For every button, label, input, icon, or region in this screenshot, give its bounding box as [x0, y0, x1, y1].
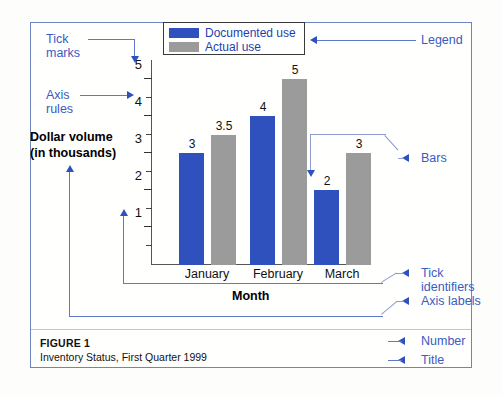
annotation-tick-identifiers-arrow-up-icon — [120, 209, 128, 216]
annotation-legend-label: Legend — [421, 33, 463, 47]
x-axis-label: Month — [232, 289, 269, 303]
bar-value-february-documented: 4 — [260, 100, 267, 114]
y-tick-minor-3_5 — [146, 134, 152, 135]
y-tick-minor-1_5 — [146, 208, 152, 209]
annotation-tick-identifiers-leader-v — [123, 215, 124, 284]
y-tick-label-3: 3 — [135, 131, 142, 146]
bar-march-documented — [314, 190, 339, 265]
legend-swatch-actual-icon — [169, 42, 199, 52]
bar-march-actual — [346, 153, 371, 265]
bar-february-documented — [250, 116, 275, 265]
bar-january-documented — [179, 153, 204, 265]
figure-screenshot: 5 4 3 2 1 3 3.5 January 4 5 February 2 3… — [0, 0, 502, 395]
legend-swatch-documented-icon — [169, 28, 199, 38]
annotation-axis-labels-label: Axis labels — [421, 294, 481, 308]
bar-january-actual — [211, 135, 236, 265]
y-tick-1 — [144, 226, 152, 228]
y-tick-minor-0_5 — [146, 245, 152, 246]
annotation-number-leader-h — [388, 341, 402, 342]
y-tick-label-4: 4 — [135, 94, 142, 109]
y-axis-rule — [151, 60, 152, 265]
bar-value-february-actual: 5 — [292, 63, 299, 77]
y-tick-minor-4_5 — [146, 97, 152, 98]
annotation-tick-marks-leader-v — [134, 39, 135, 57]
annotation-bars-leader-h1 — [398, 158, 404, 159]
annotation-tick-identifiers-leader-h1 — [396, 273, 404, 274]
bar-value-march-actual: 3 — [356, 137, 363, 151]
annotation-legend-arrow-icon — [310, 36, 317, 44]
legend-entry-documented: Documented use — [169, 26, 299, 39]
y-axis-label-line1: Dollar volume — [30, 130, 113, 144]
annotation-axis-labels-leader-h2 — [69, 316, 383, 317]
annotation-title-leader-h — [388, 360, 402, 361]
annotation-bars-label: Bars — [421, 151, 447, 165]
annotation-axis-rules-label: Axis rules — [46, 88, 73, 116]
annotation-axis-rules-leader-h — [80, 95, 128, 96]
legend-label-documented: Documented use — [205, 27, 296, 39]
x-tick-label-march: March — [325, 267, 360, 281]
bar-value-january-documented: 3 — [189, 137, 196, 151]
chart-plot-area: 5 4 3 2 1 3 3.5 January 4 5 February 2 3… — [151, 60, 366, 265]
annotation-tick-marks-leader-h — [88, 39, 135, 40]
x-tick-label-january: January — [185, 267, 229, 281]
annotation-title-label: Title — [421, 353, 444, 367]
annotation-tick-identifiers-leader-h2 — [123, 283, 383, 284]
chart-legend: Documented use Actual use — [163, 22, 305, 55]
annotation-bars-arrow-down-icon — [307, 170, 315, 177]
y-tick-label-1: 1 — [135, 205, 142, 220]
bar-february-actual — [282, 79, 307, 265]
y-tick-2 — [144, 189, 152, 191]
legend-entry-actual: Actual use — [169, 40, 299, 53]
y-tick-4 — [144, 115, 152, 117]
annotation-legend-leader-h — [316, 40, 416, 41]
annotation-bars-leader-h2 — [310, 134, 386, 135]
figure-number: FIGURE 1 — [40, 337, 207, 349]
y-tick-minor-2_5 — [146, 171, 152, 172]
annotation-number-label: Number — [421, 334, 465, 348]
y-axis-label-line2: (in thousands) — [30, 146, 116, 160]
annotation-tick-marks-label: Tick marks — [46, 32, 80, 60]
annotation-axis-rules-arrow-icon — [127, 91, 134, 99]
annotation-axis-labels-leader-v — [69, 171, 70, 317]
x-tick-label-february: February — [253, 267, 303, 281]
legend-label-actual: Actual use — [205, 41, 261, 53]
y-tick-label-2: 2 — [135, 168, 142, 183]
annotation-axis-labels-arrow-up-icon — [66, 165, 74, 172]
annotation-bars-leader-v — [310, 134, 311, 171]
figure-title: Inventory Status, First Quarter 1999 — [40, 351, 207, 363]
y-tick-5 — [144, 78, 152, 80]
figure-caption: FIGURE 1 Inventory Status, First Quarter… — [40, 337, 207, 363]
y-tick-3 — [144, 152, 152, 154]
caption-divider — [31, 329, 471, 330]
annotation-tick-identifiers-label: Tick identifiers — [421, 266, 475, 294]
bar-value-march-documented: 2 — [324, 174, 331, 188]
annotation-tick-marks-arrow-icon — [131, 56, 139, 63]
bar-value-january-actual: 3.5 — [216, 119, 233, 133]
